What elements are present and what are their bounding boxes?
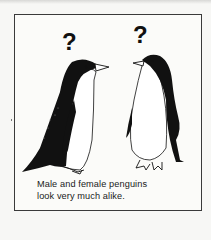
caption-line-1: Male and female penguins <box>37 179 187 191</box>
svg-text:?: ? <box>133 21 148 48</box>
svg-text:?: ? <box>62 28 77 55</box>
question-mark-icon-left: ? <box>62 28 77 55</box>
caption-line-2: look very much alike. <box>37 191 187 203</box>
caption: Male and female penguins look very much … <box>37 179 187 202</box>
penguin-left <box>22 59 109 174</box>
penguin-right <box>126 55 184 170</box>
question-mark-icon-right: ? <box>133 21 148 48</box>
